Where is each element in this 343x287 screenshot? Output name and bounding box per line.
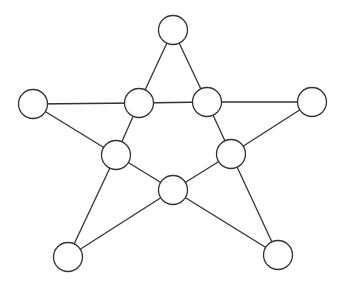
node-inner-lower-left [102,141,131,170]
node-inner-lower-right [217,140,246,169]
node-bottom-left [54,243,83,272]
graph-edges [33,30,312,257]
graph-nodes [19,16,327,272]
node-inner-left [125,89,154,118]
node-left [19,90,48,119]
node-inner-right [193,88,222,117]
edge-left-inner-left [33,103,139,104]
node-right [298,88,327,117]
star-graph-diagram [0,0,343,287]
node-bottom-right [264,241,293,270]
node-center-bottom [159,176,188,205]
node-top [159,16,188,45]
